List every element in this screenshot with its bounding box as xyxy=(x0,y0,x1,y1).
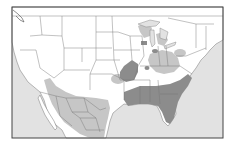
range-dark-indiana xyxy=(152,49,158,53)
range-dark-wisconsin xyxy=(141,41,147,45)
range-dark-kentucky xyxy=(145,66,150,70)
range-map xyxy=(0,0,237,147)
